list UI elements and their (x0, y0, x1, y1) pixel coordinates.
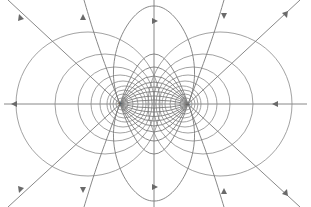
negative-charge: − (185, 99, 190, 109)
field-arrows (11, 11, 288, 196)
arrow-left-axis-icon (11, 101, 17, 107)
arrow-top-left-diag-icon (18, 14, 24, 21)
arrow-bottom-right-icon (221, 188, 227, 194)
arrow-right-axis-icon (272, 101, 278, 107)
arrow-bottom-left-diag-icon (18, 186, 24, 193)
arrow-top-right-icon (221, 13, 227, 19)
arrow-top-mid-icon (152, 18, 158, 24)
arrow-top-left-icon (80, 14, 86, 20)
arrow-bottom-mid-icon (152, 184, 158, 190)
positive-charge-label: + (117, 99, 122, 109)
positive-charge: + (117, 99, 122, 109)
dipole-field-diagram: + − (0, 0, 311, 207)
arrow-bottom-left-icon (80, 187, 86, 193)
arrow-top-right-diag-icon (282, 11, 288, 18)
arrow-bottom-right-diag-icon (282, 189, 288, 196)
negative-charge-label: − (185, 99, 190, 109)
